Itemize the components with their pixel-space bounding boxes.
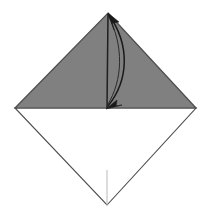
center-crease-line xyxy=(107,14,108,108)
origami-diagram-canvas xyxy=(0,0,211,223)
origami-figure xyxy=(0,0,211,223)
